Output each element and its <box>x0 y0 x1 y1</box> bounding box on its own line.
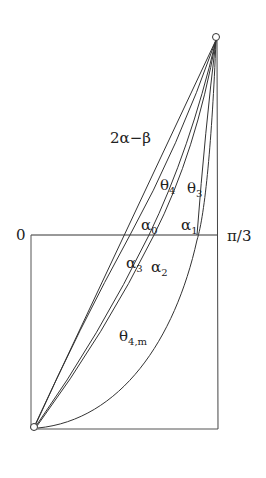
right-vertical-line <box>217 40 218 429</box>
label-theta4m: θ4,m <box>119 327 148 347</box>
label-alpha1: α1 <box>181 216 198 236</box>
bottom-point-circle <box>31 424 38 431</box>
label-2alpha-beta: 2α−β <box>110 129 151 147</box>
top-point-circle <box>213 34 220 41</box>
curve-alpha1 <box>197 40 216 235</box>
label-alpha2: α2 <box>151 258 168 278</box>
label-pi-third: π/3 <box>227 227 251 245</box>
diagram-canvas: 0 π/3 2α−β θ4 θ3 α0 α1 α3 α2 θ4,m <box>0 0 266 478</box>
curve-theta4m <box>38 40 216 428</box>
label-theta3: θ3 <box>187 179 202 199</box>
label-alpha0: α0 <box>141 216 158 236</box>
label-alpha3: α3 <box>126 254 143 274</box>
label-origin: 0 <box>16 226 26 244</box>
